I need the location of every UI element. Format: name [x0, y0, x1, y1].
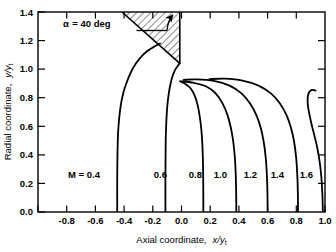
x-axis-tick-labels: -0.8 -0.6 -0.4 -0.2 0.0 0.2 0.4 0.6 0.8 … [59, 215, 332, 226]
y-tick-label: 1.0 [20, 63, 33, 74]
y-tick-label: 0.8 [20, 92, 33, 103]
curve-m-1-0 [181, 81, 237, 212]
curve-m-0-8 [180, 81, 203, 212]
y-tick-label: 0.4 [20, 149, 34, 160]
x-tick-label: 0.0 [175, 215, 188, 226]
y-tick-label: 1.4 [20, 7, 34, 18]
curve-label-m-0-6: 0.6 [154, 169, 167, 180]
alpha-symbol: α [63, 18, 69, 29]
curve-m-0-6 [165, 63, 179, 212]
y-axis-tick-labels: 0.0 0.2 0.4 0.6 0.8 1.0 1.2 1.4 [20, 7, 34, 218]
x-axis-title-text: Axial coordinate, [136, 234, 206, 245]
y-axis-ticks [38, 12, 45, 212]
x-axis-ticks [38, 206, 325, 213]
x-tick-label: -0.8 [59, 215, 75, 226]
y-tick-label: 0.6 [20, 121, 33, 132]
x-tick-label: 0.2 [204, 215, 217, 226]
curve-label-m-1-4: 1.4 [271, 169, 285, 180]
hatched-wall-region [122, 12, 180, 63]
alpha-annotation-text: = 40 deg [72, 18, 110, 29]
figure-container: -0.8 -0.6 -0.4 -0.2 0.0 0.2 0.4 0.6 0.8 … [0, 0, 336, 252]
x-tick-label: -0.6 [87, 215, 103, 226]
mach-curves-group [117, 43, 323, 212]
curve-label-m-1-6: 1.6 [300, 169, 313, 180]
x-tick-label: 0.4 [232, 215, 246, 226]
curve-m-1-6 [308, 90, 323, 212]
chart-plot: -0.8 -0.6 -0.4 -0.2 0.0 0.2 0.4 0.6 0.8 … [0, 0, 336, 252]
curve-label-m-0-4: M = 0.4 [68, 169, 101, 180]
y-axis-title: Radial coordinate,y/yt [2, 64, 14, 161]
x-tick-label: 0.8 [290, 215, 303, 226]
x-axis-title: Axial coordinate,x/yt [136, 234, 226, 246]
curve-label-m-0-8: 0.8 [189, 169, 202, 180]
alpha-annotation-label: α= 40 deg [63, 18, 111, 29]
x-tick-label: -0.4 [116, 215, 133, 226]
y-axis-title-text: Radial coordinate, [2, 84, 13, 161]
curve-label-m-1-2: 1.2 [244, 169, 257, 180]
x-axis-title-sub: t [225, 239, 227, 246]
plot-frame [38, 12, 325, 212]
curve-m-1-4 [209, 79, 298, 212]
y-tick-label: 0.2 [20, 178, 33, 189]
x-tick-label: -0.2 [145, 215, 161, 226]
y-axis-title-sub: t [7, 64, 14, 66]
y-tick-label: 1.2 [20, 35, 33, 46]
curve-m-0-4 [117, 43, 160, 212]
x-tick-label: 0.6 [261, 215, 274, 226]
y-tick-label: 0.0 [20, 206, 33, 217]
curve-labels-group: M = 0.4 0.6 0.8 1.0 1.2 1.4 1.6 [68, 169, 313, 180]
curve-label-m-1-0: 1.0 [214, 169, 227, 180]
x-tick-label: 1.0 [318, 215, 331, 226]
